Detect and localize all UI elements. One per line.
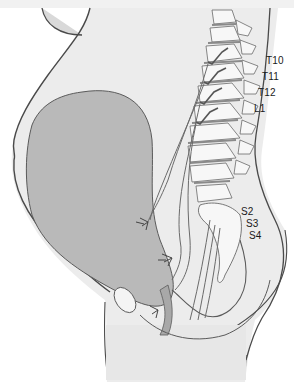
breast-outline: [42, 8, 82, 35]
label-s2: S2: [241, 207, 254, 217]
label-t10: T10: [266, 56, 284, 66]
label-t12: T12: [258, 88, 276, 98]
anatomical-illustration: T10 T11 T12 L1 S2 S3 S4: [0, 0, 294, 382]
label-s3: S3: [246, 219, 259, 229]
label-s4: S4: [249, 231, 262, 241]
label-t11: T11: [262, 72, 279, 82]
thigh-fill: [106, 325, 246, 380]
label-l1: L1: [254, 104, 266, 114]
anatomy-drawing: [0, 0, 294, 382]
